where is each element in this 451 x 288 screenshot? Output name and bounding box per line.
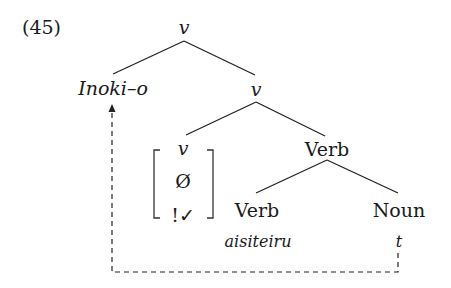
verb-phrase-node-label: Verb: [304, 138, 349, 160]
root-node-label: v: [179, 16, 190, 38]
left-bracket: [154, 150, 160, 218]
edge-root-to-inoki: [113, 41, 184, 74]
edge-verb-to-noun: [327, 160, 398, 193]
matrix-row-v: v: [178, 137, 189, 159]
example-number: (45): [22, 16, 61, 38]
inoki-o-node-label: Inoki–o: [77, 77, 148, 99]
syntax-tree-diagram: (45) v Inoki–o v v Ø !✓ Verb Verb aisite…: [0, 0, 451, 288]
arrowhead-up-icon: [109, 104, 116, 112]
verb-leaf-word: aisiteiru: [225, 232, 292, 251]
noun-leaf-trace: t: [396, 232, 403, 251]
edge-root-to-v: [184, 41, 255, 75]
noun-leaf-label: Noun: [373, 199, 426, 221]
v-node-label: v: [251, 78, 262, 100]
edge-v-to-bracket: [186, 102, 256, 135]
edge-v-to-verb: [256, 102, 325, 136]
right-bracket: [207, 150, 213, 218]
matrix-row-check: !✓: [171, 204, 195, 226]
matrix-row-empty-set: Ø: [175, 170, 191, 192]
edge-verb-to-verb: [256, 160, 327, 193]
feature-matrix: v Ø !✓: [154, 137, 213, 226]
verb-leaf-label: Verb: [234, 199, 279, 221]
